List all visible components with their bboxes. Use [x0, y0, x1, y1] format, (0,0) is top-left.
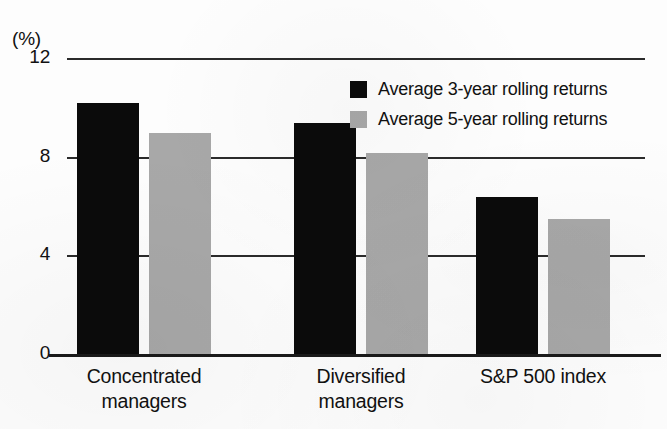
legend-swatch-icon [350, 81, 367, 98]
legend-item-label: Average 3-year rolling returns [378, 79, 607, 100]
bar-g1-s0[interactable] [294, 123, 356, 355]
category-label-2: S&P 500 index [433, 364, 653, 389]
chart-legend: Average 3-year rolling returns Average 5… [350, 76, 607, 136]
legend-item-label: Average 5-year rolling returns [378, 109, 607, 130]
bar-g2-s1[interactable] [548, 219, 610, 355]
gridline-12 [67, 58, 645, 60]
bar-g2-s0[interactable] [476, 197, 538, 355]
y-tick-label-4: 4 [8, 243, 50, 265]
y-tick-label-8: 8 [8, 145, 50, 167]
bar-g0-s1[interactable] [149, 133, 211, 355]
legend-item[interactable]: Average 5-year rolling returns [350, 106, 607, 132]
bar-g0-s0[interactable] [77, 103, 139, 355]
category-label-0: Concentrated managers [34, 364, 254, 414]
legend-swatch-icon [350, 111, 367, 128]
x-axis-baseline [49, 354, 661, 357]
y-tick-label-12: 12 [8, 46, 50, 68]
legend-item[interactable]: Average 3-year rolling returns [350, 76, 607, 102]
bar-g1-s1[interactable] [366, 153, 428, 355]
bar-chart: (%) 12840 Concentrated managersDiversifi… [0, 0, 667, 429]
y-tick-label-0: 0 [8, 342, 50, 364]
